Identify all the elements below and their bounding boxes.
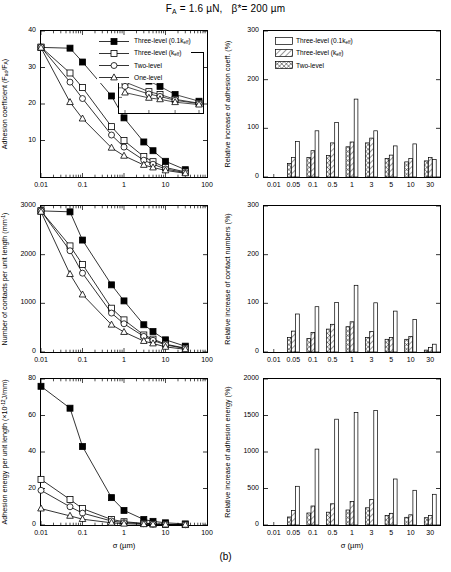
- legend-item-bar-2[interactable]: Two-level: [275, 59, 353, 71]
- legend-key-open-square: [97, 48, 131, 59]
- bar-0.5-1: [331, 143, 335, 177]
- legend-item-bar-0[interactable]: Three-level (0.1keff): [275, 35, 353, 47]
- data-point-open-triangle: [38, 505, 45, 511]
- plot-area-relative-increase-contact-numbers: [263, 205, 441, 353]
- data-point-open-circle: [121, 321, 127, 327]
- y-axis-label-relative-increase-adhesion-coeff: Relative increase of adhesion coeff. (%): [223, 30, 232, 178]
- xtick-label: 100: [191, 181, 223, 188]
- legend-item-1[interactable]: Three-level (keff): [97, 47, 191, 59]
- plot-canvas-relative-increase-contact-numbers: [264, 206, 440, 352]
- legend-item-2[interactable]: Two-level: [97, 59, 191, 71]
- bar-30-0: [424, 350, 428, 352]
- xtick-label: 30: [416, 181, 444, 188]
- legend-label-2: Two-level: [131, 62, 162, 69]
- bar-10-0: [405, 339, 409, 352]
- inset-data-point: [157, 83, 163, 89]
- data-point-open-triangle: [67, 99, 74, 105]
- bar-3-1: [370, 138, 374, 177]
- y-axis-label-relative-increase-adhesion-energy: Relative increase of adhesion energy (%): [223, 378, 232, 526]
- bar-0.1-1: [311, 506, 315, 525]
- data-point-open-circle: [121, 144, 127, 150]
- bar-0.05-1: [292, 158, 296, 178]
- data-point-filled-square: [109, 282, 115, 288]
- legend-marker: [111, 38, 117, 44]
- bar-0.1-1: [311, 151, 315, 177]
- legend-swatch-hatch-cross: [275, 61, 293, 69]
- bar-30-1: [428, 348, 432, 352]
- data-point-open-circle: [67, 248, 73, 254]
- bar-0.5-0: [327, 329, 331, 352]
- data-point-open-square: [80, 85, 86, 91]
- bar-0.05-2: [296, 314, 300, 352]
- data-point-filled-square: [80, 59, 86, 65]
- legend-swatch-plain: [275, 37, 293, 45]
- bar-5-1: [389, 513, 393, 525]
- legend-item-3[interactable]: One-level: [97, 71, 191, 83]
- legend-label-bar-2: Two-level: [293, 62, 324, 69]
- bar-0.5-2: [335, 419, 339, 525]
- plot-area-adhesion-energy: [40, 378, 208, 526]
- plot-area-number-of-contacts: [40, 205, 208, 353]
- data-point-filled-square: [67, 209, 73, 215]
- data-point-open-circle: [80, 96, 86, 102]
- bar-1-2: [354, 413, 358, 525]
- figure-title: FA = 1.6 µN, β*= 200 µm: [0, 3, 451, 15]
- plot-canvas-adhesion-energy: [41, 379, 207, 525]
- bar-0.1-2: [315, 131, 319, 177]
- bar-0.5-0: [327, 156, 331, 177]
- data-point-open-triangle: [121, 328, 128, 334]
- legend-swatch-hatch-diagonal: [275, 49, 293, 57]
- legend-key-open-triangle: [97, 72, 131, 83]
- bar-30-2: [433, 344, 437, 352]
- y-axis-label-adhesion-coefficient: Adhesion coefficient (Fad/FA): [0, 30, 9, 178]
- xtick-label: 1: [108, 356, 140, 363]
- data-point-filled-square: [109, 93, 115, 99]
- bar-1-0: [346, 510, 350, 525]
- bar-3-2: [374, 410, 378, 525]
- data-point-open-triangle: [67, 271, 74, 277]
- bar-1-1: [350, 502, 354, 525]
- xtick-label: 1: [108, 529, 140, 536]
- bar-5-2: [393, 479, 397, 525]
- bar-30-1: [428, 516, 432, 526]
- bar-3-2: [374, 131, 378, 177]
- plot-area-relative-increase-adhesion-energy: [263, 378, 441, 526]
- bar-30-0: [424, 161, 428, 177]
- plot-canvas-relative-increase-adhesion-energy: [264, 379, 440, 525]
- bar-0.1-2: [315, 449, 319, 525]
- bar-30-2: [433, 160, 437, 178]
- bar-1-1: [350, 322, 354, 352]
- bar-30-0: [424, 518, 428, 525]
- data-point-filled-square: [163, 158, 169, 164]
- x-axis-label-adhesion-energy: σ (µm): [40, 541, 208, 550]
- legend-marker: [111, 73, 118, 79]
- legend-key-filled-square: [97, 36, 131, 47]
- legend-line-chart: Three-level (0.1keff)Three-level (keff)T…: [97, 35, 191, 83]
- data-point-open-square: [67, 496, 73, 502]
- legend-item-0[interactable]: Three-level (0.1keff): [97, 35, 191, 47]
- data-point-open-circle: [109, 132, 115, 138]
- legend-marker: [111, 50, 117, 56]
- bar-5-1: [389, 337, 393, 352]
- bar-0.05-2: [296, 142, 300, 178]
- legend-label-bar-1: Three-level (keff): [293, 49, 343, 57]
- bar-10-2: [413, 144, 417, 177]
- bar-0.5-2: [335, 123, 339, 178]
- bar-0.5-1: [331, 324, 335, 352]
- bar-10-0: [405, 162, 409, 177]
- xtick-label: 0.01: [25, 181, 57, 188]
- legend-label-bar-0: Three-level (0.1keff): [293, 37, 353, 45]
- figure-root: FA = 1.6 µN, β*= 200 µm 102030400.010.11…: [0, 0, 451, 572]
- xtick-label: 0.01: [25, 356, 57, 363]
- legend-item-bar-1[interactable]: Three-level (keff): [275, 47, 353, 59]
- bar-10-2: [413, 490, 417, 525]
- legend-key-open-circle: [97, 60, 131, 71]
- plot-canvas-number-of-contacts: [41, 206, 207, 352]
- bar-5-2: [393, 311, 397, 352]
- bar-1-1: [350, 142, 354, 177]
- title-eq: = 1.6 µN, β*= 200 µm: [177, 3, 286, 14]
- bar-3-0: [366, 508, 370, 525]
- bar-0.05-2: [296, 486, 300, 525]
- xtick-label: 0.01: [25, 529, 57, 536]
- data-point-filled-square: [121, 298, 127, 304]
